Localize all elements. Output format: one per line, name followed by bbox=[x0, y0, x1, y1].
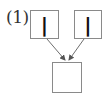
input-value-right: | bbox=[84, 15, 91, 35]
arrow-right-to-bottom bbox=[69, 39, 84, 60]
input-value-left: | bbox=[41, 15, 48, 35]
answer-box[interactable] bbox=[52, 62, 82, 93]
arrow-left-to-bottom bbox=[47, 39, 65, 60]
input-box-right: | bbox=[74, 10, 102, 39]
input-box-left: | bbox=[30, 10, 59, 39]
